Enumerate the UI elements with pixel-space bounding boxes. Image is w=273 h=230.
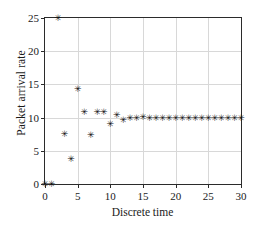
x-gridline (176, 18, 177, 184)
y-axis-tick-label: 15 (28, 78, 39, 90)
data-point-marker (158, 114, 167, 123)
y-gridline (45, 84, 241, 85)
data-point-marker (210, 114, 219, 123)
y-axis-tick (41, 151, 45, 152)
data-point-marker (60, 130, 69, 139)
plot-area: 0510152025300510152025 (44, 17, 242, 185)
y-axis-tick-label: 5 (34, 145, 40, 157)
data-point-marker (178, 114, 187, 123)
y-axis-title: Packet arrival rate (14, 0, 28, 186)
y-axis-tick (41, 18, 45, 19)
data-point-marker (99, 108, 108, 117)
x-axis-tick (78, 184, 79, 188)
x-axis-tick-label: 5 (75, 190, 81, 202)
x-axis-tick (110, 184, 111, 188)
x-axis-tick (241, 184, 242, 188)
data-point-marker (54, 14, 63, 23)
y-gridline (45, 151, 241, 152)
x-axis-tick (176, 184, 177, 188)
x-axis-tick (143, 184, 144, 188)
data-point-marker (237, 114, 246, 123)
data-point-marker (191, 114, 200, 123)
data-point-marker (217, 114, 226, 123)
data-point-marker (223, 114, 232, 123)
y-gridline (45, 51, 241, 52)
data-point-marker (197, 114, 206, 123)
x-axis-tick (45, 184, 46, 188)
x-axis-tick-label: 25 (203, 190, 214, 202)
x-gridline (78, 18, 79, 184)
data-point-marker (47, 180, 56, 189)
x-axis-title: Discrete time (44, 206, 241, 219)
chart-figure: Packet arrival rate 05101520253005101520… (0, 0, 273, 230)
x-gridline (143, 18, 144, 184)
data-point-marker (230, 114, 239, 123)
y-axis-tick (41, 84, 45, 85)
x-axis-tick-label: 20 (170, 190, 181, 202)
data-point-marker (112, 111, 121, 120)
data-point-marker (184, 114, 193, 123)
y-axis-tick-label: 25 (28, 12, 39, 24)
x-gridline (110, 18, 111, 184)
x-axis-tick-label: 10 (105, 190, 116, 202)
data-point-marker (132, 114, 141, 123)
x-gridline (208, 18, 209, 184)
y-gridline (45, 118, 241, 119)
data-point-marker (80, 108, 89, 117)
x-axis-tick-label: 0 (42, 190, 48, 202)
y-axis-tick (41, 118, 45, 119)
plot-canvas (45, 18, 241, 184)
x-axis-tick-label: 30 (236, 190, 247, 202)
data-point-marker (152, 114, 161, 123)
x-axis-tick-label: 15 (138, 190, 149, 202)
data-point-marker (145, 114, 154, 123)
y-axis-tick-label: 0 (34, 178, 40, 190)
data-point-marker (93, 108, 102, 117)
y-axis-tick-label: 10 (28, 112, 39, 124)
data-point-marker (125, 114, 134, 123)
data-point-marker (86, 131, 95, 140)
data-point-marker (165, 114, 174, 123)
y-axis-tick-label: 20 (28, 45, 39, 57)
y-axis-tick (41, 51, 45, 52)
data-point-marker (67, 155, 76, 164)
y-axis-tick (41, 184, 45, 185)
x-axis-tick (208, 184, 209, 188)
